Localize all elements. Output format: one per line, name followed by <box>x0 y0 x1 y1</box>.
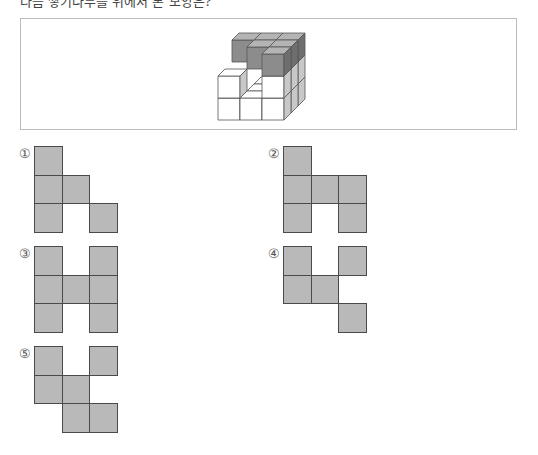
grid-cell <box>283 146 312 176</box>
grid-cell <box>338 303 367 333</box>
grid-cell <box>311 275 340 305</box>
grid-cell <box>62 375 91 405</box>
grid-cell <box>338 203 367 233</box>
grid-cell <box>89 403 118 433</box>
question-text: 다음 쌓기나무를 위에서 본 모양은? <box>20 0 212 10</box>
figure-box <box>20 18 517 130</box>
grid-cell <box>283 246 312 276</box>
cube-front-face <box>218 76 240 98</box>
grid-cell <box>283 275 312 305</box>
grid-cell <box>62 403 91 433</box>
grid-cell <box>34 303 63 333</box>
grid-cell <box>62 275 91 305</box>
grid-cell <box>34 275 63 305</box>
grid-cell <box>89 346 118 376</box>
option-label: ④ <box>268 247 280 261</box>
cube-front-face <box>262 98 284 120</box>
grid-cell <box>89 275 118 305</box>
grid-cell <box>283 175 312 205</box>
cube-front-face <box>262 54 284 76</box>
option-label: ② <box>268 147 280 161</box>
cube-front-face <box>218 98 240 120</box>
grid-cell <box>311 175 340 205</box>
cube-front-face <box>240 98 262 120</box>
option-label: ⑤ <box>19 347 31 361</box>
grid-cell <box>34 146 63 176</box>
grid-cell <box>34 375 63 405</box>
grid-cell <box>89 303 118 333</box>
option-label: ① <box>19 147 31 161</box>
grid-cell <box>34 203 63 233</box>
stacked-cubes-figure <box>21 19 518 131</box>
grid-cell <box>338 246 367 276</box>
option-label: ③ <box>19 247 31 261</box>
grid-cell <box>34 346 63 376</box>
grid-cell <box>283 203 312 233</box>
grid-cell <box>89 246 118 276</box>
grid-cell <box>34 175 63 205</box>
grid-cell <box>89 203 118 233</box>
grid-cell <box>34 246 63 276</box>
cube-front-face <box>262 76 284 98</box>
grid-cell <box>338 175 367 205</box>
grid-cell <box>62 175 91 205</box>
